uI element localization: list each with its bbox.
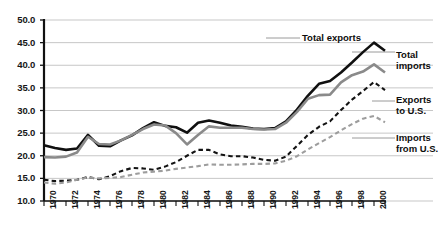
axes (44, 19, 386, 201)
y-tick-label: 35.0 (1, 82, 35, 93)
line-chart: 50.045.040.035.030.025.020.015.010.0 197… (0, 0, 440, 251)
x-tick-label: 1976 (114, 190, 124, 209)
y-tick-label: 45.0 (1, 37, 35, 48)
series-label-imports-from-us: Importsfrom U.S. (396, 133, 438, 154)
series-line-total-exports (44, 43, 385, 150)
y-tick-label: 25.0 (1, 127, 35, 138)
x-tick-label: 1998 (356, 190, 366, 209)
x-tick-label: 2000 (378, 190, 388, 209)
gridlines (44, 20, 433, 201)
y-tick-label: 15.0 (1, 172, 35, 183)
x-tick-label: 1984 (202, 190, 212, 209)
x-tick-label: 1996 (334, 190, 344, 209)
series-line-exports-to-u-s (44, 82, 385, 181)
x-tick-label: 1972 (70, 190, 80, 209)
y-tick-label: 50.0 (1, 14, 35, 25)
y-tick-label: 20.0 (1, 150, 35, 161)
series-label-total-imports-line2: imports (396, 60, 431, 71)
y-tick-label: 10.0 (1, 195, 35, 206)
series-label-imports-from-us-line1: Imports (396, 132, 431, 143)
x-tick-label: 1970 (48, 190, 58, 209)
series-label-total-imports-line1: Total (396, 49, 418, 60)
x-tick-label: 1982 (180, 190, 190, 209)
series-label-exports-to-us-line2: to U.S. (396, 105, 426, 116)
y-tick-label: 40.0 (1, 59, 35, 70)
series-label-total-imports: Totalimports (396, 50, 431, 71)
x-tick-label: 1994 (312, 190, 322, 209)
chart-canvas (0, 0, 440, 251)
x-tick-label: 1980 (158, 190, 168, 209)
x-tick-label: 1992 (290, 190, 300, 209)
series-label-imports-from-us-line2: from U.S. (396, 143, 438, 154)
data-series-group (44, 43, 385, 184)
y-tick-label: 30.0 (1, 105, 35, 116)
x-tick-label: 1986 (224, 190, 234, 209)
series-label-exports-to-us-line1: Exports (396, 94, 431, 105)
series-label-exports-to-us: Exportsto U.S. (396, 95, 431, 116)
x-tick-label: 1974 (92, 190, 102, 209)
series-label-total-exports: Total exports (302, 33, 361, 44)
x-tick-label: 1978 (136, 190, 146, 209)
x-tick-label: 1990 (268, 190, 278, 209)
x-tick-label: 1988 (246, 190, 256, 209)
